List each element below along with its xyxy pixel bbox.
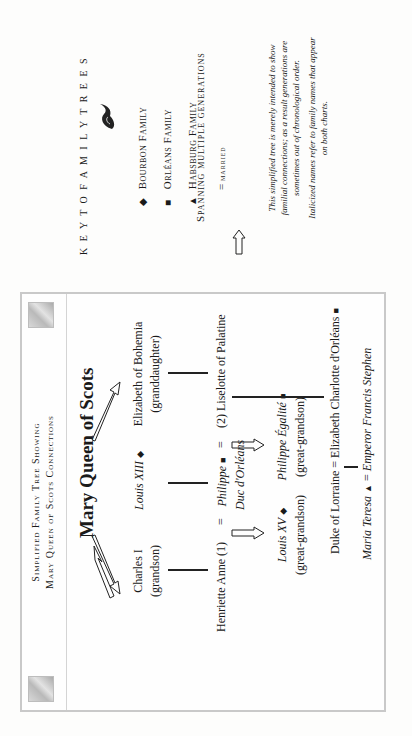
legend-item-married: = married [209,102,235,206]
chart-title-line2: Mary Queen of Scots Connections [44,294,55,710]
person-maria-teresa: Maria Teresa [360,496,374,560]
bourbon-diamond-icon: ◆ [135,451,145,458]
legend-note-italics: Italicized names refer to family names t… [306,0,330,256]
chart-title-line1: Simplified Family Tree Showing [30,294,41,710]
person-philippe-egalite: Philippe Égalité ■ (great-grandson) [274,382,309,492]
generation-arrow-down-icon [230,526,266,540]
generation-arrow-left-icon [88,528,124,598]
married-sign: = [214,518,229,525]
orleans-square-icon: ■ [218,457,228,462]
rotated-page: Simplified Family Tree Showing Mary Quee… [0,0,412,736]
person-charles-i: Charles I (grandson) [130,536,164,606]
person-duke-of-lorraine: Duke of Lorraine [328,471,342,554]
legend-list: ◆ Bourbon Family ■ Orléans Family ▲ Habs… [130,102,235,206]
married-equals-icon: = [215,184,227,190]
connector-line [232,397,324,399]
generation-arrow-down-icon [230,438,266,452]
marriage-maria-teresa-francis: Maria Teresa ▲ = Emperor Francis Stephen [360,348,375,560]
person-elizabeth-charlotte: Elizabeth Charlotte d'Orléans [328,316,342,457]
legend-item-bourbon: ◆ Bourbon Family [130,102,155,206]
legend-item-orleans: ■ Orléans Family [155,102,180,206]
married-sign: = [214,441,229,448]
bourbon-diamond-icon: ◆ [130,192,155,206]
connector-line [168,373,208,375]
marriage-lorraine-orleans: Duke of Lorraine = Elizabeth Charlotte d… [328,308,343,554]
person-philippe-duc-dorleans: Philippe ■ Duc d'Orléans [214,454,249,510]
legend-title: K E Y T O F A M I L Y T R E E S [78,56,89,255]
connector-line [168,570,208,572]
connector-line [168,483,208,485]
bourbon-diamond-icon: ◆ [278,508,288,515]
person-henriette-anne: Henriette Anne (1) [214,542,229,632]
person-elizabeth-of-bohemia: Elizabeth of Bohemia (granddaughter) [130,314,164,434]
person-louis-xv: Louis XV ◆ (great-grandson) [274,480,309,590]
chart-header: Simplified Family Tree Showing Mary Quee… [22,294,67,710]
legend-note-chronology: This simplified tree is merely intended … [266,0,302,256]
legend-item-spanning [232,228,246,256]
habsburg-triangle-icon: ▲ [363,484,373,493]
orleans-square-icon: ■ [155,192,180,206]
family-tree-chart: Simplified Family Tree Showing Mary Quee… [20,292,386,712]
hollow-arrow-icon [232,228,246,256]
fleuron-ornament-icon [96,102,118,132]
legend-spanning-label: Spanning multiple generations [194,52,206,222]
connector-line [344,467,358,469]
orleans-square-icon: ■ [331,308,341,313]
generation-arrow-right-icon [88,378,124,448]
person-liselotte-of-palatine: (2) Liselotte of Palatine [214,314,229,428]
person-louis-xiii: Louis XIII ◆ [132,451,147,510]
person-francis-stephen: Emperor Francis Stephen [360,348,374,472]
